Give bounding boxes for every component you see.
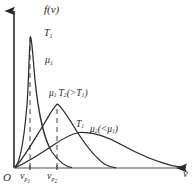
- curve-label-mu1-t2: μ1 T2(>T1): [49, 89, 88, 99]
- x-tick-label-vp2: vp2: [47, 171, 57, 184]
- curve-label-t1-top: T1: [44, 28, 53, 39]
- subscript: 1: [50, 33, 53, 39]
- x-axis-label: v: [183, 168, 188, 179]
- comparison-text: (>T: [67, 88, 82, 98]
- curve-label-t1-low: T1: [76, 120, 84, 130]
- figure-canvas: [0, 0, 195, 193]
- subscript: p2: [51, 176, 57, 182]
- subscript: p1: [24, 176, 30, 182]
- curve-t1-mu2: [15, 132, 186, 167]
- subscript: 1: [50, 60, 53, 66]
- subscript: 1: [81, 123, 84, 129]
- comparison-text: (<μ: [98, 124, 112, 134]
- nested-subscript: 2: [54, 178, 57, 184]
- maxwell-distribution-figure: f(v) v O T1 μ1 μ1 T2(>T1) T1 μ2(<μ1) vp1…: [0, 0, 195, 193]
- origin-label: O: [3, 172, 11, 183]
- curve-label-mu1-top: μ1: [45, 55, 53, 66]
- nested-subscript: 1: [27, 178, 30, 184]
- comparison-close: ): [84, 88, 87, 98]
- x-tick-label-vp1: vp1: [20, 171, 30, 184]
- curve-t1-mu1: [15, 37, 72, 168]
- y-axis-label: f(v): [44, 4, 59, 15]
- comparison-close: ): [115, 124, 118, 134]
- curve-label-mu2: μ2(<μ1): [90, 125, 118, 135]
